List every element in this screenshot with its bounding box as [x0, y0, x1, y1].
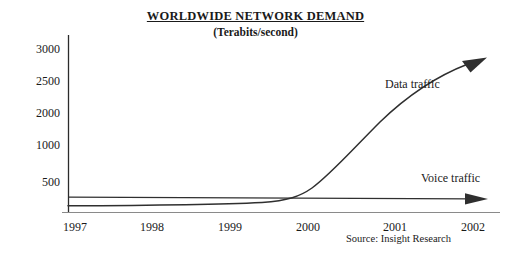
voice-traffic-label: Voice traffic: [421, 172, 480, 184]
data-traffic-label: Data traffic: [385, 78, 440, 90]
worldwide-network-demand-chart: WORLDWIDE NETWORK DEMAND (Terabits/secon…: [0, 0, 511, 263]
x-tick-label: 1999: [218, 221, 242, 233]
x-tick-label: 2002: [461, 221, 485, 233]
x-tick-label: 2001: [383, 221, 407, 233]
voice-traffic-arrowhead: [465, 193, 488, 204]
x-tick-label: 2000: [296, 221, 320, 233]
x-tick-label: 1998: [140, 221, 164, 233]
data-traffic-arrowhead: [462, 58, 487, 73]
source-note: Source: Insight Research: [346, 233, 451, 244]
voice-traffic-line: [68, 197, 470, 199]
x-tick-label: 1997: [63, 221, 87, 233]
